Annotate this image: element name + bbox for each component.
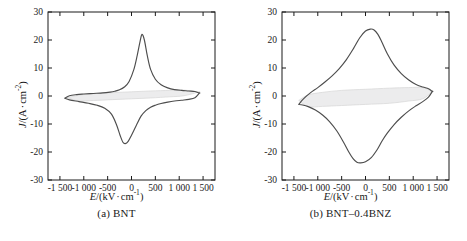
figure-root: -1 500-1 000-50005001 0001 5003020100-10… [0, 0, 467, 241]
panel-a: -1 500-1 000-50005001 0001 5003020100-10… [0, 0, 233, 241]
y-tick-label: 10 [34, 63, 44, 73]
y-tick-label: 30 [34, 7, 44, 17]
y-tick-label: -20 [30, 147, 43, 157]
y-tick-label: -10 [30, 119, 43, 129]
y-tick-label: 10 [268, 63, 278, 73]
y-axis-title-b: J/(A·cm-2) [248, 81, 262, 128]
y-tick-label: 30 [268, 7, 278, 17]
y-tick-label: 20 [268, 35, 278, 45]
x-axis-title-a: E/(kV·cm-1) [0, 188, 233, 202]
y-tick-label: 0 [38, 91, 43, 101]
inner-shaded-region [67, 90, 200, 101]
y-tick-label: -20 [264, 147, 277, 157]
y-axis-title-a: J/(A·cm-2) [14, 81, 28, 128]
y-tick-label: 0 [272, 91, 277, 101]
y-tick-label: -30 [264, 175, 277, 185]
y-tick-label: -30 [30, 175, 43, 185]
jer-hysteresis-curve [65, 34, 200, 143]
panel-b: -1 500-1 000-50005001 0001 5003020100-10… [234, 0, 467, 241]
x-axis-title-b: E/(kV·cm-1) [234, 188, 467, 202]
panel-caption-a: (a) BNT [0, 207, 233, 219]
plot-a-canvas: -1 500-1 000-50005001 0001 5003020100-10… [0, 0, 233, 241]
y-tick-label: -10 [264, 119, 277, 129]
y-tick-label: 20 [34, 35, 44, 45]
inner-shaded-region [299, 87, 434, 107]
plot-b-canvas: -1 500-1 000-50005001 0001 5003020100-10… [234, 0, 467, 241]
panel-caption-b: (b) BNT–0.4BNZ [234, 207, 467, 219]
